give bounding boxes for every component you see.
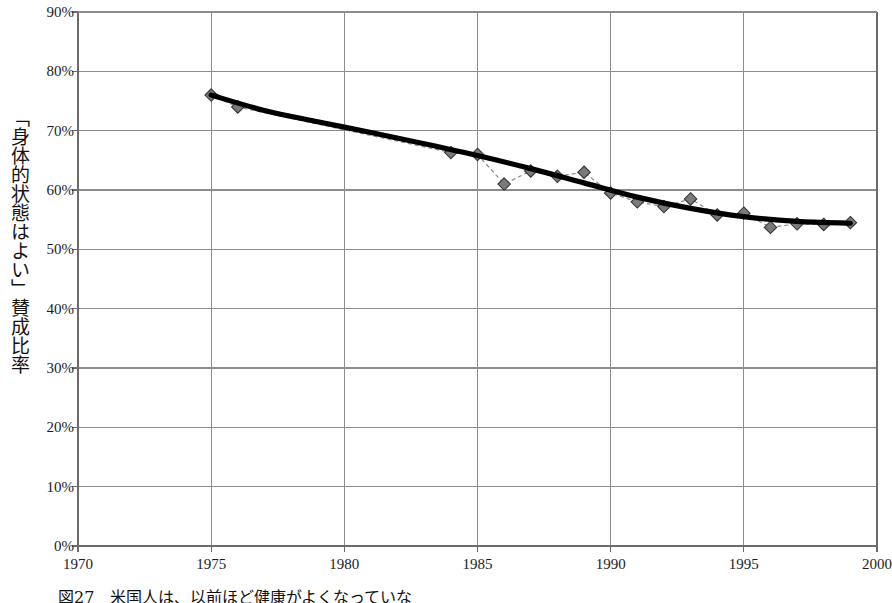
x-axis-tick-labels: 1970197519801985199019952000 (0, 0, 892, 603)
x-axis-tick-label: 1970 (63, 556, 93, 573)
x-axis-tick-label: 2000 (862, 556, 892, 573)
x-axis-tick-label: 1980 (329, 556, 359, 573)
figure-caption: 図27 米国人は、以前ほど健康がよくなっていな (58, 584, 758, 603)
x-axis-tick-label: 1985 (463, 556, 493, 573)
chart-container: 「身体的状態はよい」賛成比率 0%10%20%30%40%50%60%70%80… (0, 0, 892, 603)
x-axis-tick-label: 1990 (596, 556, 626, 573)
x-axis-tick-label: 1995 (729, 556, 759, 573)
x-axis-tick-label: 1975 (196, 556, 226, 573)
